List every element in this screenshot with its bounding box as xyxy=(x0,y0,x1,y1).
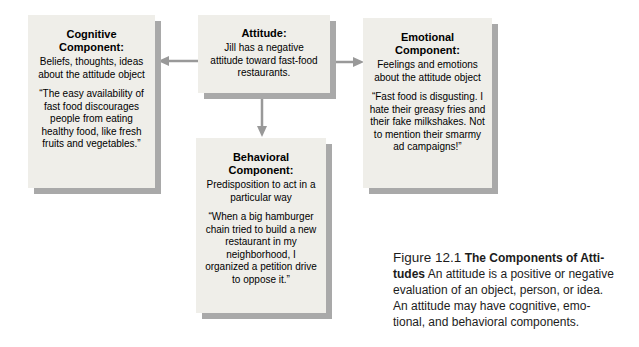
caption-line: Figure 12.1 The Components of Atti- xyxy=(393,250,637,266)
arrow-attitude-to-cognitive-icon xyxy=(158,56,198,66)
attitude-box: Attitude: Jill has a negative attitude t… xyxy=(198,15,330,93)
behavioral-component-box: Behavioral Component: Predisposition to … xyxy=(196,138,326,313)
attitude-box-description: Jill has a negative attitude toward fast… xyxy=(209,42,319,80)
caption-line: tudes An attitude is a positive or negat… xyxy=(393,266,637,282)
behavioral-box-title: Behavioral Component: xyxy=(204,151,318,177)
arrow-attitude-to-behavioral-icon xyxy=(257,98,267,137)
cognitive-box-title: Cognitive Component: xyxy=(35,28,148,54)
attitude-box-title: Attitude: xyxy=(209,27,319,40)
emotional-box-description: Feelings and emotions about the attitude… xyxy=(369,59,486,84)
caption-line: An attitude may have cognitive, emo- xyxy=(393,298,637,314)
behavioral-box-description: Predisposition to act in a particular wa… xyxy=(204,179,318,204)
caption-title-part: tudes xyxy=(393,267,425,281)
figure-12-1-diagram: Attitude: Jill has a negative attitude t… xyxy=(0,0,639,347)
caption-line: evaluation of an object, person, or idea… xyxy=(393,282,637,298)
figure-caption: Figure 12.1 The Components of Atti- tude… xyxy=(393,250,637,330)
emotional-component-box: Emotional Component: Feelings and emotio… xyxy=(363,18,492,188)
emotional-box-quote: “Fast food is disgusting. I hate their g… xyxy=(369,91,486,154)
cognitive-box-quote: “The easy availability of fast food disc… xyxy=(35,88,148,151)
figure-label: Figure 12.1 xyxy=(393,250,461,265)
caption-title-part: The Components of Atti- xyxy=(465,251,605,265)
caption-body-text: An attitude is a positive or negative xyxy=(425,267,614,281)
emotional-box-title: Emotional Component: xyxy=(369,31,486,57)
arrow-attitude-to-emotional-icon xyxy=(331,57,364,67)
behavioral-box-quote: “When a big hamburger chain tried to bui… xyxy=(204,211,318,286)
cognitive-box-description: Beliefs, thoughts, ideas about the attit… xyxy=(35,56,148,81)
cognitive-component-box: Cognitive Component: Beliefs, thoughts, … xyxy=(28,15,155,188)
caption-line: tional, and behavioral components. xyxy=(393,314,637,330)
